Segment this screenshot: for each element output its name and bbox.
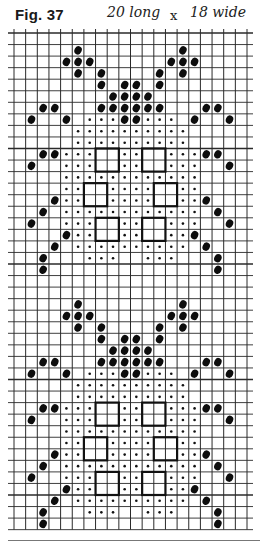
small-dot-icon bbox=[170, 465, 173, 468]
small-dot-icon bbox=[112, 118, 115, 121]
big-dot-icon bbox=[120, 91, 130, 102]
small-dot-icon bbox=[100, 176, 103, 179]
big-dot-icon bbox=[61, 311, 71, 322]
small-dot-icon bbox=[88, 165, 91, 168]
small-dot-icon bbox=[77, 141, 80, 144]
small-dot-icon bbox=[170, 257, 173, 260]
big-dot-icon bbox=[38, 357, 48, 368]
small-dot-icon bbox=[77, 222, 80, 225]
small-dot-icon bbox=[88, 222, 91, 225]
big-dot-icon bbox=[96, 68, 106, 79]
big-dot-icon bbox=[73, 299, 83, 310]
small-dot-icon bbox=[77, 407, 80, 410]
small-dot-icon bbox=[112, 130, 115, 133]
big-dot-icon bbox=[120, 103, 130, 114]
small-dot-icon bbox=[147, 141, 150, 144]
small-dot-icon bbox=[147, 257, 150, 260]
small-dot-icon bbox=[182, 211, 185, 214]
small-dot-icon bbox=[193, 453, 196, 456]
small-dot-icon bbox=[77, 234, 80, 237]
small-dot-icon bbox=[112, 430, 115, 433]
small-dot-icon bbox=[158, 141, 161, 144]
small-dot-icon bbox=[158, 499, 161, 502]
small-dot-icon bbox=[182, 453, 185, 456]
small-dot-icon bbox=[158, 430, 161, 433]
big-dot-icon bbox=[189, 311, 199, 322]
big-dot-icon bbox=[26, 415, 36, 426]
big-dot-icon bbox=[131, 114, 141, 125]
small-dot-icon bbox=[112, 257, 115, 260]
big-dot-icon bbox=[38, 149, 48, 160]
small-dot-icon bbox=[135, 234, 138, 237]
small-dot-icon bbox=[158, 384, 161, 387]
small-dot-icon bbox=[135, 407, 138, 410]
small-dot-icon bbox=[123, 499, 126, 502]
small-dot-icon bbox=[147, 130, 150, 133]
small-dot-icon bbox=[147, 372, 150, 375]
small-dot-icon bbox=[182, 476, 185, 479]
big-dot-icon bbox=[178, 311, 188, 322]
big-dot-icon bbox=[155, 334, 165, 345]
small-dot-icon bbox=[147, 199, 150, 202]
big-dot-icon bbox=[61, 368, 71, 379]
small-dot-icon bbox=[182, 419, 185, 422]
big-dot-icon bbox=[213, 357, 223, 368]
big-dot-icon bbox=[38, 403, 48, 414]
big-dot-icon bbox=[73, 68, 83, 79]
small-dot-icon bbox=[147, 396, 150, 399]
small-dot-icon bbox=[123, 188, 126, 191]
small-dot-icon bbox=[170, 419, 173, 422]
small-dot-icon bbox=[123, 384, 126, 387]
small-dot-icon bbox=[65, 176, 68, 179]
big-dot-icon bbox=[50, 449, 60, 460]
big-dot-icon bbox=[178, 322, 188, 333]
small-dot-icon bbox=[77, 476, 80, 479]
small-dot-icon bbox=[193, 222, 196, 225]
small-dot-icon bbox=[112, 511, 115, 514]
big-dot-icon bbox=[143, 345, 153, 356]
big-dot-icon bbox=[131, 368, 141, 379]
small-dot-icon bbox=[193, 176, 196, 179]
small-dot-icon bbox=[100, 141, 103, 144]
small-dot-icon bbox=[65, 453, 68, 456]
small-dot-icon bbox=[182, 141, 185, 144]
big-dot-icon bbox=[73, 45, 83, 56]
small-dot-icon bbox=[170, 407, 173, 410]
small-dot-icon bbox=[123, 141, 126, 144]
big-dot-icon bbox=[50, 149, 60, 160]
small-dot-icon bbox=[182, 188, 185, 191]
small-dot-icon bbox=[112, 372, 115, 375]
small-dot-icon bbox=[100, 465, 103, 468]
big-dot-icon bbox=[201, 149, 211, 160]
small-dot-icon bbox=[88, 130, 91, 133]
small-dot-icon bbox=[88, 234, 91, 237]
small-dot-icon bbox=[170, 511, 173, 514]
small-dot-icon bbox=[170, 499, 173, 502]
small-dot-icon bbox=[65, 199, 68, 202]
big-dot-icon bbox=[201, 403, 211, 414]
small-dot-icon bbox=[170, 430, 173, 433]
big-dot-icon bbox=[155, 68, 165, 79]
big-dot-icon bbox=[120, 80, 130, 91]
small-dot-icon bbox=[123, 130, 126, 133]
big-dot-icon bbox=[50, 195, 60, 206]
big-dot-icon bbox=[38, 253, 48, 264]
small-dot-icon bbox=[112, 188, 115, 191]
small-dot-icon bbox=[135, 430, 138, 433]
baseline-divider bbox=[8, 540, 260, 541]
small-dot-icon bbox=[100, 372, 103, 375]
big-dot-icon bbox=[96, 322, 106, 333]
small-dot-icon bbox=[88, 465, 91, 468]
big-dot-icon bbox=[50, 403, 60, 414]
small-dot-icon bbox=[170, 222, 173, 225]
small-dot-icon bbox=[158, 130, 161, 133]
small-dot-icon bbox=[88, 419, 91, 422]
small-dot-icon bbox=[123, 488, 126, 491]
small-dot-icon bbox=[135, 245, 138, 248]
small-dot-icon bbox=[147, 499, 150, 502]
small-dot-icon bbox=[182, 245, 185, 248]
small-dot-icon bbox=[135, 476, 138, 479]
small-dot-icon bbox=[77, 165, 80, 168]
small-dot-icon bbox=[100, 245, 103, 248]
small-dot-icon bbox=[123, 442, 126, 445]
